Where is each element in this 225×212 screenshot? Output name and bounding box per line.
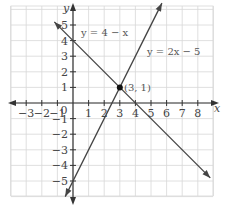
y-tick-label: 2 [61,66,68,79]
x-tick-label: 1 [85,107,92,120]
y-tick-label: −3 [52,144,68,157]
y-tick-label: 4 [61,35,68,48]
y-tick-label: −1 [52,113,68,126]
x-tick-label: 7 [179,107,186,120]
x-tick-label: 8 [194,107,201,120]
lines [54,3,210,196]
x-axis-label: x [214,102,221,115]
x-tick-label: 3 [116,107,123,120]
x-tick-label: 6 [163,107,170,120]
arrow-head-icon [65,188,71,196]
line2-label: y = 2x − 5 [146,46,201,57]
y-tick-label: −4 [52,159,68,172]
x-tick-label: −3 [18,107,34,120]
intersection-point [117,84,123,90]
y-axis-label: y [62,2,70,15]
y-tick-label: 3 [61,50,68,63]
coordinate-plane: −3−2−1012345678−5−4−3−2−112345 x y y = 4… [0,0,225,212]
y-tick-label: −2 [52,128,68,141]
x-tick-label: −2 [34,107,50,120]
y-tick-label: −5 [52,175,68,188]
line1-label: y = 4 − x [80,27,128,38]
x-tick-label: 4 [132,107,139,120]
y-tick-label: 1 [61,81,68,94]
arrow-head-icon [156,3,162,11]
intersection-label: (3, 1) [124,82,151,93]
